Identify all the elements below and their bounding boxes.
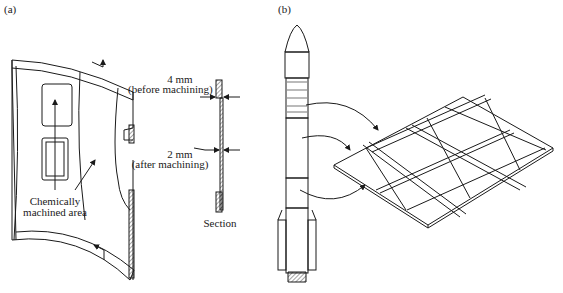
machined-panel-drawing bbox=[12, 60, 134, 280]
rocket-drawing bbox=[278, 25, 316, 282]
figure-canvas bbox=[0, 0, 563, 293]
section-label: Section bbox=[200, 218, 240, 229]
panel-b-label: (b) bbox=[278, 4, 291, 15]
isogrid-panel-drawing bbox=[334, 95, 553, 228]
thickness-before-note: (before machining) bbox=[128, 84, 210, 95]
panel-a-label: (a) bbox=[4, 4, 16, 15]
thickness-after-note: (after machining) bbox=[130, 159, 210, 170]
callout-line-2: machined area bbox=[5, 207, 105, 218]
section-drawing bbox=[194, 80, 240, 212]
